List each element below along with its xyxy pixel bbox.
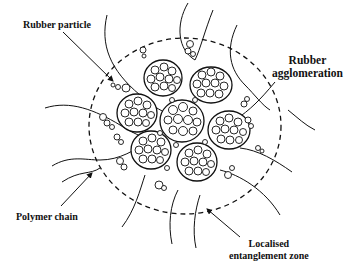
- agglomerate: [117, 94, 157, 132]
- rubber-particle-label: Rubber particle: [23, 19, 91, 31]
- entanglement-zone-label-line1: Localised: [229, 238, 309, 250]
- agglomerate: [144, 60, 182, 96]
- entanglement-zone-arrow: [207, 209, 240, 237]
- agglomerate: [208, 111, 250, 149]
- rubber-agglomeration-diagram: [0, 0, 353, 270]
- polymer-chain-arrow: [61, 173, 92, 206]
- polymer-chain-label: Polymer chain: [16, 211, 78, 223]
- agglomerate: [131, 131, 171, 169]
- rubber-agglomeration-label: Rubber agglomeration: [272, 54, 343, 80]
- entanglement-zone-label-line2: entanglement zone: [229, 250, 309, 262]
- agglomerate: [160, 100, 204, 142]
- rubber-agglomerates: [117, 60, 250, 181]
- entanglement-zone-label: Localised entanglement zone: [229, 238, 309, 261]
- rubber-agglomeration-label-line2: agglomeration: [272, 67, 343, 80]
- rubber-agglomeration-label-line1: Rubber: [272, 54, 343, 67]
- agglomerate: [177, 143, 217, 181]
